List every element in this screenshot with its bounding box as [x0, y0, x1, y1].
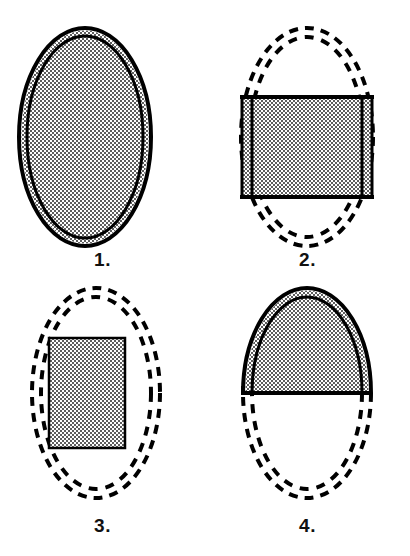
panel-4: 4. — [205, 278, 410, 556]
panel-2-drawing — [205, 0, 410, 278]
panel-2: 2. — [205, 0, 410, 278]
inner-ellipse-outline — [27, 36, 143, 238]
band-stipple-fill — [241, 96, 373, 198]
figure-container: 1. — [0, 0, 410, 556]
panel-3: 3. — [0, 278, 205, 556]
inscribed-rectangle — [49, 338, 125, 448]
panel-3-label: 3. — [0, 515, 205, 537]
panel-1: 1. — [0, 0, 205, 278]
panel-4-label: 4. — [205, 515, 410, 537]
panel-1-drawing — [0, 0, 205, 278]
panel-1-label: 1. — [0, 249, 205, 271]
panel-2-label: 2. — [205, 249, 410, 271]
